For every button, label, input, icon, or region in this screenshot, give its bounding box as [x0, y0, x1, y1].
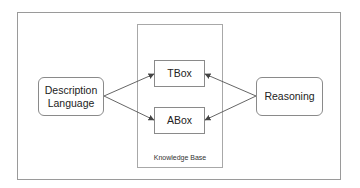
- arrows-layer: [0, 0, 360, 188]
- arrow-reasoning-to-tbox: [205, 74, 256, 96]
- arrow-reasoning-to-abox: [205, 96, 256, 120]
- arrow-dl-to-abox: [104, 96, 154, 120]
- arrow-dl-to-tbox: [104, 74, 154, 96]
